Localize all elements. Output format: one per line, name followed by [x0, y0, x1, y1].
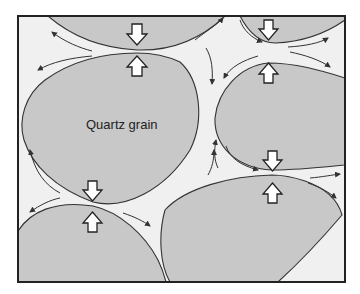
grain-right: [215, 63, 345, 170]
pressure-solution-diagram: [0, 0, 360, 294]
quartz-grain-label: Quartz grain: [86, 117, 158, 132]
